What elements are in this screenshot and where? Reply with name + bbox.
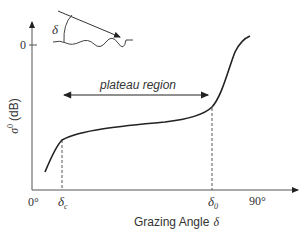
grazing-angle-inset: δ [52,11,133,47]
x-tick-transition: δ0 [208,194,218,211]
svg-text:σ0(dB): σ0(dB) [6,98,21,134]
plateau-label: plateau region [99,78,176,92]
inset-angle-label: δ [52,22,59,37]
x-axis-label: Grazing Angleδ [134,215,219,229]
y-axis: 0 [20,22,37,190]
y-label-superscript: 0 [6,124,15,128]
backscatter-curve [45,36,250,172]
y-tick-zero: 0 [20,38,26,52]
y-axis-label: σ0(dB) [6,98,21,134]
x-tick-critical: δc [58,194,68,211]
x-axis: 0° δc δ0 90° [28,190,298,211]
x-tick-end: 90° [249,194,266,208]
x-tick-origin: 0° [28,195,39,209]
backscatter-diagram: 0 σ0(dB) 0° δc δ0 90° Grazing Angleδ pla… [0,0,308,233]
y-label-unit: (dB) [7,98,21,121]
plateau-annotation: plateau region [64,78,208,95]
